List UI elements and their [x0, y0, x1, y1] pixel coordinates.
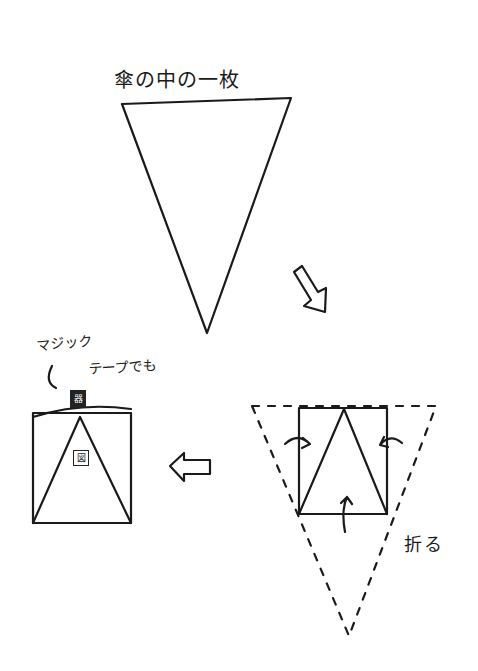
inner-triangle: [299, 409, 387, 514]
pointer-line: [49, 366, 56, 388]
fold-label: 折る: [404, 530, 444, 556]
tape-stamp: 器: [70, 390, 86, 408]
top-curve: [33, 407, 131, 417]
folded-rectangle: [299, 408, 387, 514]
center-stamp: 図: [73, 450, 89, 466]
fold-arrow-right-icon: [380, 437, 402, 447]
umbrella-panel-triangle: [122, 98, 291, 333]
arrow-down-right-icon: [294, 266, 326, 312]
title-label: 傘の中の一枚: [114, 64, 240, 93]
result-rectangle: [33, 413, 131, 523]
result-triangle: [33, 417, 131, 523]
fold-arrow-left-icon: [285, 438, 310, 448]
arrow-left-icon: [170, 453, 210, 481]
